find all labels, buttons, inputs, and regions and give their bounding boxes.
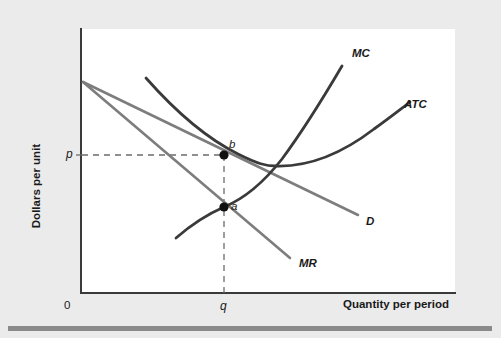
y-axis-title: Dollars per unit — [30, 126, 42, 246]
demand-curve-label: D — [366, 216, 374, 228]
x-axis-line — [80, 292, 456, 294]
bottom-rule — [8, 326, 492, 331]
marginal-revenue-curve-label: MR — [299, 258, 317, 270]
point-a-label: a — [231, 201, 237, 213]
quantity-tick-label: q — [220, 300, 227, 312]
origin-label: 0 — [64, 300, 70, 312]
point-b-label: b — [229, 139, 235, 151]
economics-figure: Dollars per unit Quantity per period 0 p… — [0, 0, 501, 338]
y-axis-line — [80, 28, 82, 294]
plot-area-background — [82, 29, 455, 293]
x-axis-title: Quantity per period — [343, 299, 449, 311]
price-tick-label: p — [66, 148, 73, 160]
marginal-cost-curve-label: MC — [352, 48, 370, 60]
average-total-cost-curve-label: ATC — [404, 99, 427, 111]
